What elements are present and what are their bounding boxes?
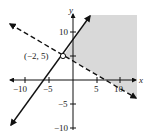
y-tick-label: −5 bbox=[58, 99, 68, 109]
x-tick-label: −5 bbox=[43, 84, 53, 94]
y-tick-label: −10 bbox=[54, 123, 69, 133]
inequality-graph: −10 −5 5 10 10 −5 −10 x y (−2, 5) bbox=[0, 0, 145, 134]
solid-boundary-line bbox=[11, 16, 90, 125]
intersection-point-label: (−2, 5) bbox=[24, 51, 49, 61]
x-tick-label: −10 bbox=[13, 84, 28, 94]
y-axis-label: y bbox=[68, 5, 73, 15]
intersection-point-marker bbox=[60, 53, 65, 58]
x-tick-label: 5 bbox=[94, 84, 99, 94]
x-axis-label: x bbox=[138, 75, 143, 85]
y-tick-label: 10 bbox=[59, 27, 69, 37]
